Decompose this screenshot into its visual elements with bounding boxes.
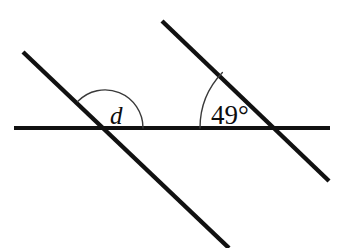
angle-d-label: d — [110, 102, 123, 129]
geometry-diagram: d 49° — [0, 0, 341, 248]
diagram-background — [0, 0, 341, 248]
diagram-canvas: d 49° — [0, 0, 341, 248]
angle-49-label: 49° — [211, 100, 249, 130]
